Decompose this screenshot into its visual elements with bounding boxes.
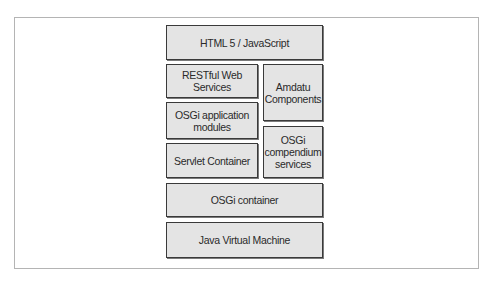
layer-osgi-container: OSGi container — [166, 183, 323, 217]
layer-amdatu-components: Amdatu Components — [263, 64, 323, 121]
layer-java-virtual-machine: Java Virtual Machine — [166, 222, 323, 258]
layer-label: Servlet Container — [174, 155, 250, 167]
layer-osgi-application-modules: OSGi application modules — [166, 102, 258, 139]
layer-label: HTML 5 / JavaScript — [200, 37, 289, 49]
layer-label: OSGi application modules — [175, 109, 249, 133]
layer-restful-web-services: RESTful Web Services — [166, 64, 258, 98]
layer-label: OSGi container — [211, 194, 279, 206]
layer-servlet-container: Servlet Container — [166, 143, 258, 178]
layer-label: Amdatu Components — [265, 81, 322, 105]
layer-label: OSGi compendium services — [264, 134, 321, 170]
layer-label: RESTful Web Services — [167, 69, 257, 93]
layer-label: Java Virtual Machine — [199, 234, 290, 246]
layer-osgi-compendium-services: OSGi compendium services — [263, 126, 323, 178]
layer-html5-javascript: HTML 5 / JavaScript — [166, 25, 323, 60]
